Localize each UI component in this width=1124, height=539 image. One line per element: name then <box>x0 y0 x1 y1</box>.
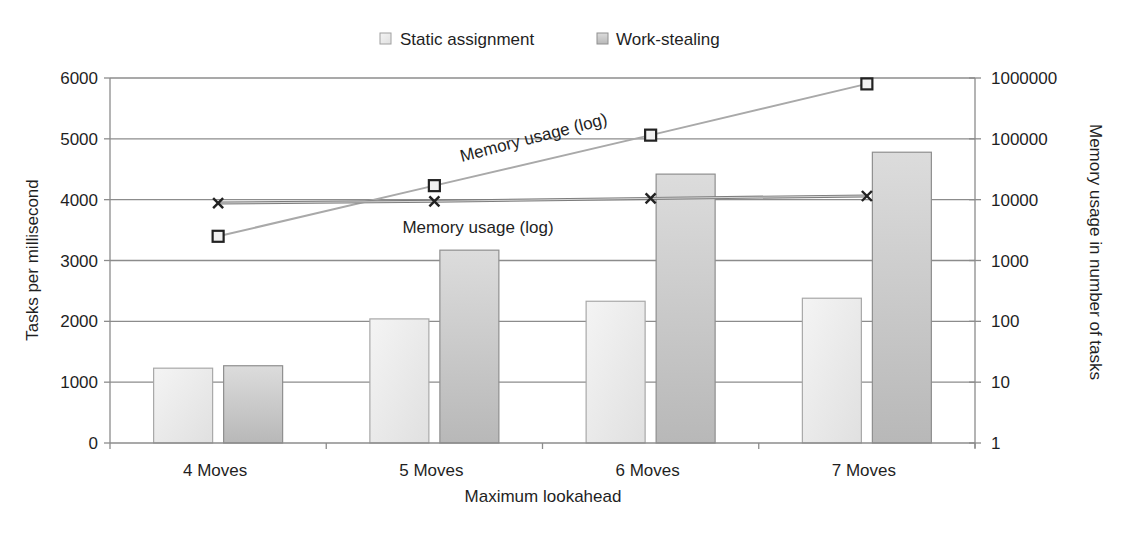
annotation-x-series: Memory usage (log) <box>402 218 553 237</box>
marker-square <box>645 130 656 141</box>
y2-tick-label: 1 <box>991 434 1000 453</box>
bar-static-assignment <box>802 298 861 443</box>
y2-axis-title: Memory usage in number of tasks <box>1086 124 1105 380</box>
marker-square <box>861 78 872 89</box>
y2-tick-label: 100 <box>991 312 1019 331</box>
y2-tick-label: 1000 <box>991 252 1029 271</box>
bar-static-assignment <box>154 368 213 443</box>
line-memory-square-series <box>218 84 867 236</box>
bar-static-assignment <box>586 301 645 443</box>
marker-square <box>213 231 224 242</box>
bar-static-assignment <box>370 319 429 443</box>
annotation-square-series: Memory usage (log) <box>458 110 609 166</box>
legend-swatch-static <box>380 33 391 44</box>
x-tick-label: 5 Moves <box>399 461 463 480</box>
x-tick-label: 4 Moves <box>183 461 247 480</box>
x-axis-title: Maximum lookahead <box>465 487 622 506</box>
bar-work-stealing <box>440 250 499 443</box>
y2-tick-label: 10000 <box>991 191 1038 210</box>
y-tick-label: 2000 <box>60 312 98 331</box>
y-tick-label: 5000 <box>60 130 98 149</box>
legend-label-work-stealing: Work-stealing <box>616 30 720 49</box>
y2-tick-label: 100000 <box>991 130 1048 149</box>
y-tick-label: 0 <box>89 434 98 453</box>
marker-square <box>429 180 440 191</box>
bar-work-stealing <box>872 152 931 443</box>
bar-work-stealing <box>224 366 283 443</box>
y-tick-label: 4000 <box>60 191 98 210</box>
y-tick-label: 3000 <box>60 252 98 271</box>
chart: 0100020003000400050006000110100100010000… <box>0 0 1124 539</box>
y-axis-title: Tasks per millisecond <box>23 179 42 341</box>
y-tick-label: 6000 <box>60 69 98 88</box>
x-tick-label: 7 Moves <box>832 461 896 480</box>
y-tick-label: 1000 <box>60 373 98 392</box>
y2-tick-label: 1000000 <box>991 69 1057 88</box>
y2-tick-label: 10 <box>991 373 1010 392</box>
legend-swatch-work-stealing <box>597 33 608 44</box>
legend-label-static: Static assignment <box>400 30 534 49</box>
bar-work-stealing <box>656 174 715 443</box>
legend: Static assignment Work-stealing <box>380 30 720 49</box>
x-tick-label: 6 Moves <box>616 461 680 480</box>
